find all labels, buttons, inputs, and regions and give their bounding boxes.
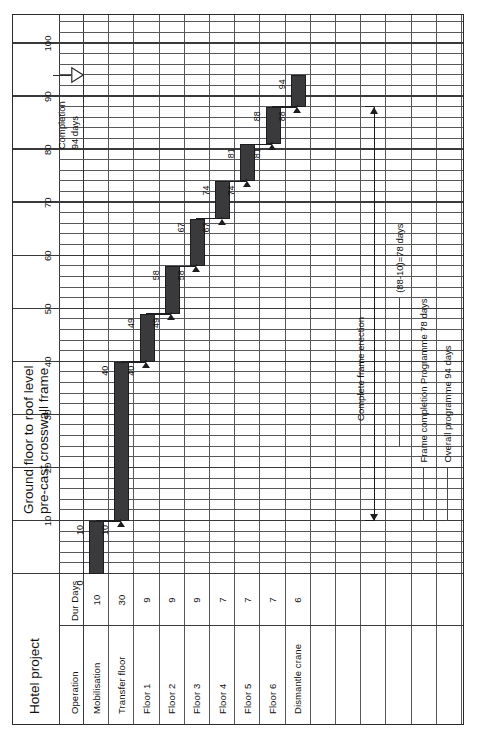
row-rule [209,15,210,724]
completion-marker-icon [70,67,83,83]
task-duration-cell: 10 [90,595,101,606]
gantt-bar [291,75,306,107]
column-header-operation: Operation [69,671,80,714]
annotation-leader-line [423,468,424,521]
dependency-arrow-icon [293,107,301,113]
axis-gridline-minor [59,350,463,351]
task-name-cell: Floor 2 [166,684,177,714]
axis-gridline-minor [59,64,463,65]
axis-gridline-minor [59,297,463,298]
task-duration-cell: 9 [191,597,202,602]
annotation-frame-programme: Frame completion Programme 78 days [418,298,429,462]
axis-gridline-major [13,573,463,574]
axis-gridline-minor [59,531,463,532]
axis-gridline-minor [59,127,463,128]
bar-finish-label: 94 [277,79,287,89]
task-name-cell: Floor 4 [216,684,227,714]
axis-gridline-minor [59,85,463,86]
task-name-cell: Mobilisation [90,663,101,714]
axis-tick-label: 10 [42,516,53,527]
bar-start-label: 58 [176,270,186,280]
axis-tick-label: 50 [42,303,53,314]
rotated-page: 102030405060708090100Mobilisation10Trans… [0,0,477,739]
axis-gridline-minor [59,562,463,563]
axis-gridline-minor [59,170,463,171]
task-name-cell: Dismantle crane [292,644,303,714]
bar-finish-label: 40 [100,366,110,376]
row-rule [436,15,437,724]
dependency-arrow-icon [243,181,251,187]
axis-gridline-minor [59,74,463,75]
bar-start-label: 67 [201,223,211,233]
column-header-duration: Dur Days [69,581,80,621]
axis-gridline-major [13,95,463,96]
bar-finish-label: 74 [201,185,211,195]
row-rule [461,15,462,724]
row-rule [259,15,260,724]
chart-heading-line-2: pre-cast crosswall frame [36,368,51,514]
column-rule-operation [59,625,463,626]
annotation-overall-programme: Overall programme 94 days [442,345,453,462]
dependency-arrow-icon [268,144,276,150]
axis-tick-label: 80 [42,144,53,155]
dependency-arrow-icon [142,362,150,368]
task-name-cell: Transfer floor [115,656,126,714]
axis-tick-label: 60 [42,250,53,261]
axis-tick-label: 100 [42,35,53,51]
row-rule [285,15,286,724]
axis-gridline-minor [59,552,463,553]
axis-gridline-major [13,467,463,468]
axis-gridline-major [13,42,463,43]
axis-gridline-minor [59,159,463,160]
task-duration-cell: 7 [216,597,227,602]
task-duration-cell: 9 [166,597,177,602]
axis-gridline-major [13,201,463,202]
dependency-arrow-icon [218,219,226,225]
frame-erection-span-tick [365,520,374,521]
gantt-bar [114,362,129,521]
bar-finish-label: 81 [226,148,236,158]
bar-start-label: 40 [126,366,136,376]
frame-erection-span-line [374,107,375,521]
completion-annotation-line-2: 94 days [69,116,80,149]
axis-gridline-minor [59,32,463,33]
frame-erection-span-tick [365,106,374,107]
task-duration-cell: 6 [292,597,303,602]
row-rule [159,15,160,724]
dependency-arrow-icon [167,314,175,320]
chart-heading-line-1: Ground floor to roof level [21,365,36,514]
axis-gridline-minor [59,53,463,54]
row-rule [385,15,386,724]
task-name-cell: Floor 1 [141,684,152,714]
axis-gridline-minor [59,180,463,181]
row-rule [310,15,311,724]
axis-gridline-minor [59,21,463,22]
task-duration-cell: 9 [141,597,152,602]
gantt-chart-screenshot: 102030405060708090100Mobilisation10Trans… [0,0,477,739]
axis-tick-label: 70 [42,197,53,208]
axis-gridline-minor [59,191,463,192]
axis-gridline-minor [59,106,463,107]
row-rule [411,15,412,724]
frame-erection-span-arrow-right-icon [370,107,378,114]
task-name-cell: Floor 6 [267,684,278,714]
annotation-leader-line [399,298,400,447]
axis-gridline-major [13,308,463,309]
completion-marker-stem [53,75,71,76]
axis-tick-label: 40 [42,356,53,367]
bar-start-label: 74 [226,185,236,195]
axis-gridline-major [13,361,463,362]
bar-start-label: 49 [151,318,161,328]
task-duration-cell: 7 [267,597,278,602]
task-duration-cell: 7 [241,597,252,602]
axis-gridline-minor [59,212,463,213]
completion-dashed-line [83,75,84,574]
bar-start-label: 81 [252,148,262,158]
dependency-arrow-icon [117,521,125,527]
task-name-cell: Floor 5 [241,684,252,714]
task-name-cell: Floor 3 [191,684,202,714]
annotation-complete-frame-erection: Complete frame erection [355,317,366,421]
axis-gridline-minor [59,340,463,341]
completion-annotation-line-1: Completion [56,101,67,149]
task-duration-cell: 30 [115,595,126,606]
